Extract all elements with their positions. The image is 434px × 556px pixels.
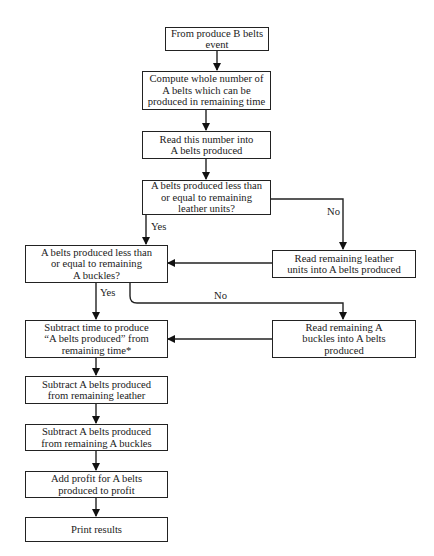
node-subtract-leather-label: Subtract A belts produced from remaining…	[42, 379, 151, 402]
node-print: Print results	[25, 517, 168, 542]
node-compute-label: Compute whole number of A belts which ca…	[148, 73, 265, 108]
edge-label-buckles-yes: Yes	[100, 287, 115, 298]
edge-label-leather-yes: Yes	[151, 221, 166, 232]
edge-label-buckles-no: No	[214, 290, 227, 301]
node-read-number: Read this number into A belts produced	[142, 131, 271, 159]
node-subtract-time-label: Subtract time to produce “A belts produc…	[44, 322, 148, 357]
node-read-leather: Read remaining leather units into A belt…	[272, 250, 416, 278]
node-check-buckles: A belts produced less than or equal to r…	[25, 245, 168, 283]
node-read-buckles-label: Read remaining A buckles into A belts pr…	[302, 322, 385, 357]
node-compute: Compute whole number of A belts which ca…	[142, 71, 271, 110]
node-subtract-time: Subtract time to produce “A belts produc…	[25, 320, 168, 358]
node-subtract-leather: Subtract A belts produced from remaining…	[25, 376, 168, 404]
node-read-number-label: Read this number into A belts produced	[160, 134, 254, 157]
node-read-leather-label: Read remaining leather units into A belt…	[287, 253, 401, 276]
node-check-leather: A belts produced less than or equal to r…	[142, 180, 271, 215]
node-start-label: From produce B belts event	[170, 28, 264, 51]
node-start: From produce B belts event	[165, 27, 269, 51]
node-subtract-buckles-label: Subtract A belts produced from remaining…	[41, 426, 151, 449]
node-check-buckles-label: A belts produced less than or equal to r…	[41, 247, 152, 282]
node-add-profit: Add profit for A belts produced to profi…	[25, 471, 168, 498]
node-check-leather-label: A belts produced less than or equal to r…	[151, 180, 262, 215]
node-add-profit-label: Add profit for A belts produced to profi…	[51, 473, 142, 496]
node-read-buckles: Read remaining A buckles into A belts pr…	[272, 320, 416, 358]
edge-label-leather-no: No	[327, 206, 340, 217]
node-subtract-buckles: Subtract A belts produced from remaining…	[25, 424, 168, 451]
node-print-label: Print results	[71, 524, 122, 536]
